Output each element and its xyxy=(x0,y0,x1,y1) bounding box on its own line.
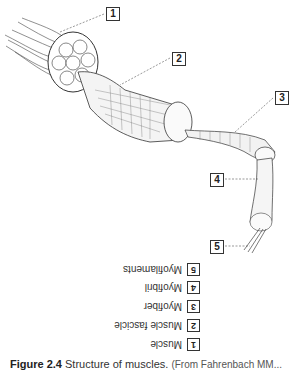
muscle-drawing xyxy=(0,0,297,260)
legend-text: Muscle xyxy=(150,340,182,351)
diagram-label-2: 2 xyxy=(172,52,186,66)
legend-item-muscle: 1 Muscle xyxy=(150,338,200,352)
legend-number: 3 xyxy=(187,301,200,314)
legend-text: Myofibril xyxy=(145,283,182,294)
legend-number: 1 xyxy=(187,339,200,352)
legend-item-myofibril: 4 Myofibril xyxy=(145,281,200,295)
legend-number: 2 xyxy=(187,320,200,333)
diagram-label-3: 3 xyxy=(275,91,289,105)
diagram-label-4: 4 xyxy=(210,173,224,187)
figure-caption: Figure 2.4 Structure of muscles. (From F… xyxy=(10,358,282,370)
figure-number: Figure 2.4 xyxy=(10,358,62,370)
legend-item-myofilaments: 5 Myofilaments xyxy=(123,263,200,277)
figure-title: Structure of muscles. xyxy=(65,358,168,370)
legend-text: Myofiber xyxy=(144,302,182,313)
diagram-label-5: 5 xyxy=(210,240,224,254)
legend-text: Muscle fascicle xyxy=(114,321,182,332)
legend-number: 5 xyxy=(187,264,200,277)
legend-item-muscle-fascicle: 2 Muscle fascicle xyxy=(114,319,200,333)
legend-text: Myofilaments xyxy=(123,265,182,276)
legend-number: 4 xyxy=(187,282,200,295)
diagram-label-1: 1 xyxy=(106,7,120,21)
legend-item-myofiber: 3 Myofiber xyxy=(144,300,200,314)
muscle-structure-illustration: 1 2 3 4 5 xyxy=(0,0,297,260)
figure-source: (From Fahrenbach MM... xyxy=(171,359,282,370)
legend-rotated: 1 Muscle 2 Muscle fascicle 3 Myofiber 4 … xyxy=(20,258,200,354)
